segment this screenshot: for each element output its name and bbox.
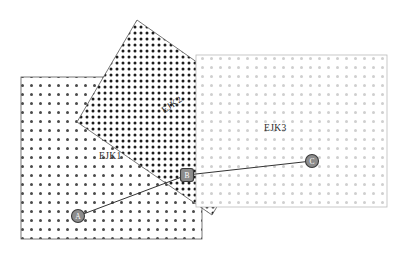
node-label-B: B: [184, 171, 189, 180]
node-label-C: C: [309, 157, 314, 166]
node-B[interactable]: B: [181, 169, 194, 182]
region-ejk3: [196, 55, 387, 207]
region-label-ejk1: EJK1: [99, 152, 122, 162]
node-C[interactable]: C: [306, 155, 319, 168]
node-A[interactable]: A: [72, 210, 85, 223]
regions-layer: [21, 20, 387, 239]
figure-root: ABC EJK1 EJK2 EJK3: [0, 0, 404, 257]
region-label-ejk3: EJK3: [264, 124, 287, 134]
node-label-A: A: [75, 212, 81, 221]
figure-canvas: ABC: [0, 0, 404, 257]
